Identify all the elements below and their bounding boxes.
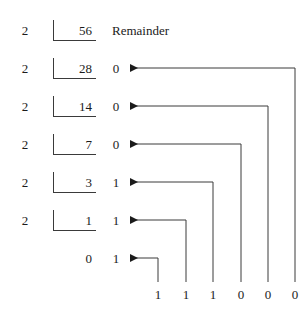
connector-bit4-to-remainder2 [130, 106, 268, 282]
diagram-lines-layer [0, 0, 302, 314]
division-bracket-1 [53, 58, 96, 78]
division-bracket-3 [53, 134, 96, 154]
connector-bit2-to-remainder4 [130, 182, 213, 282]
division-bracket-2 [53, 96, 96, 116]
division-bracket-0 [53, 20, 96, 40]
division-bracket-5 [53, 210, 96, 230]
connector-bit0-to-remainder6 [130, 258, 158, 282]
binary-conversion-figure: 2 2 2 2 2 2 56 28 14 7 3 1 0 Remainder 0… [0, 0, 302, 314]
division-bracket-4 [53, 172, 96, 192]
